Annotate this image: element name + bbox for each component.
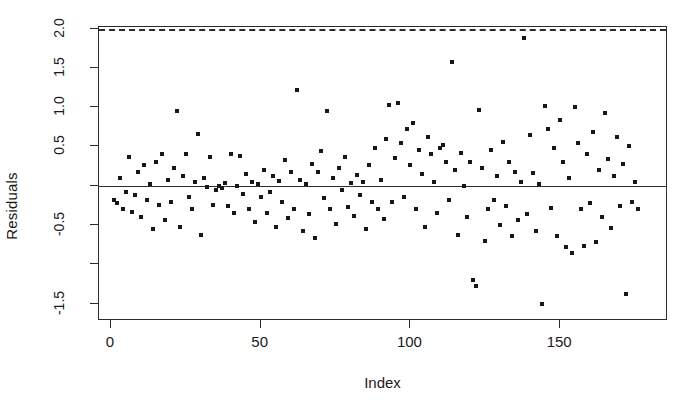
data-point bbox=[513, 170, 517, 174]
data-point bbox=[468, 160, 472, 164]
data-point bbox=[187, 195, 191, 199]
data-point bbox=[274, 225, 278, 229]
data-point bbox=[193, 180, 197, 184]
data-point bbox=[561, 160, 565, 164]
data-point bbox=[426, 135, 430, 139]
x-axis-title: Index bbox=[98, 374, 667, 394]
y-axis-title: Residuals bbox=[0, 0, 30, 412]
data-point bbox=[384, 137, 388, 141]
data-point bbox=[157, 203, 161, 207]
data-point bbox=[456, 233, 460, 237]
data-point bbox=[355, 173, 359, 177]
y-axis-tick bbox=[90, 224, 98, 225]
data-point bbox=[190, 207, 194, 211]
data-point bbox=[331, 176, 335, 180]
data-point bbox=[256, 182, 260, 186]
data-point bbox=[280, 200, 284, 204]
x-axis-tick-label: 150 bbox=[534, 333, 584, 350]
data-point bbox=[423, 225, 427, 229]
data-point bbox=[313, 236, 317, 240]
data-point bbox=[298, 178, 302, 182]
data-point bbox=[310, 162, 314, 166]
data-point bbox=[444, 160, 448, 164]
data-point bbox=[486, 207, 490, 211]
data-point bbox=[334, 222, 338, 226]
data-point bbox=[136, 170, 140, 174]
data-point bbox=[301, 229, 305, 233]
data-point bbox=[558, 118, 562, 122]
data-point bbox=[408, 163, 412, 167]
data-point bbox=[609, 226, 613, 230]
data-point bbox=[361, 180, 365, 184]
data-point bbox=[328, 207, 332, 211]
data-point bbox=[139, 215, 143, 219]
data-point bbox=[358, 193, 362, 197]
data-point bbox=[340, 188, 344, 192]
data-point bbox=[364, 227, 368, 231]
data-point bbox=[238, 154, 242, 158]
y-axis-tick bbox=[90, 303, 98, 304]
data-point bbox=[115, 201, 119, 205]
data-point bbox=[591, 130, 595, 134]
plot-area bbox=[98, 26, 667, 320]
data-point bbox=[594, 240, 598, 244]
data-point bbox=[630, 200, 634, 204]
x-axis-tick-label: 0 bbox=[85, 333, 135, 350]
data-point bbox=[268, 190, 272, 194]
data-point bbox=[618, 204, 622, 208]
data-point bbox=[411, 121, 415, 125]
data-point bbox=[396, 101, 400, 105]
data-point bbox=[492, 198, 496, 202]
y-axis-title-label: Residuals bbox=[3, 172, 20, 240]
residual-scatter-plot: Residuals Index 2.01.51.00.5-0.5-1.50501… bbox=[0, 0, 682, 412]
data-point bbox=[142, 163, 146, 167]
data-point bbox=[453, 168, 457, 172]
y-axis-tick bbox=[90, 145, 98, 146]
data-point bbox=[133, 193, 137, 197]
data-point bbox=[262, 168, 266, 172]
data-point bbox=[495, 174, 499, 178]
data-point bbox=[118, 176, 122, 180]
data-point bbox=[175, 109, 179, 113]
data-point bbox=[540, 302, 544, 306]
data-point bbox=[393, 156, 397, 160]
data-point bbox=[235, 184, 239, 188]
data-point bbox=[178, 225, 182, 229]
data-point bbox=[124, 190, 128, 194]
x-axis-title-label: Index bbox=[364, 374, 401, 391]
data-point bbox=[582, 244, 586, 248]
data-point bbox=[379, 178, 383, 182]
x-axis-tick bbox=[110, 320, 111, 328]
data-point bbox=[471, 278, 475, 282]
data-point bbox=[402, 195, 406, 199]
data-point bbox=[148, 182, 152, 186]
data-point bbox=[325, 109, 329, 113]
data-point bbox=[163, 218, 167, 222]
data-point bbox=[241, 192, 245, 196]
data-point bbox=[624, 292, 628, 296]
data-point bbox=[525, 212, 529, 216]
y-axis-tick bbox=[90, 185, 98, 186]
data-point bbox=[573, 105, 577, 109]
y-axis-tick bbox=[90, 106, 98, 107]
data-point bbox=[633, 180, 637, 184]
x-axis-tick bbox=[260, 320, 261, 328]
x-axis-tick-label: 100 bbox=[384, 333, 434, 350]
data-point bbox=[277, 179, 281, 183]
data-point bbox=[606, 157, 610, 161]
data-point bbox=[627, 144, 631, 148]
data-point bbox=[271, 174, 275, 178]
data-point bbox=[549, 206, 553, 210]
data-point bbox=[489, 148, 493, 152]
data-point bbox=[447, 198, 451, 202]
data-point bbox=[480, 166, 484, 170]
data-point bbox=[537, 182, 541, 186]
data-point bbox=[555, 234, 559, 238]
data-point bbox=[127, 155, 131, 159]
data-point bbox=[504, 204, 508, 208]
data-point bbox=[507, 160, 511, 164]
data-point bbox=[169, 200, 173, 204]
data-point bbox=[543, 104, 547, 108]
data-point bbox=[498, 223, 502, 227]
data-point bbox=[319, 149, 323, 153]
